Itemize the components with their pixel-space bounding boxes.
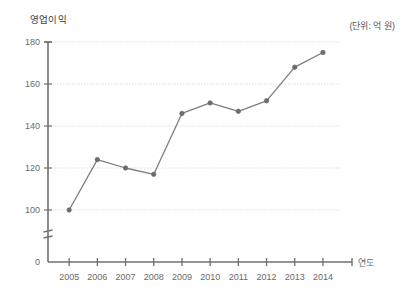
data-point-marker — [67, 208, 71, 212]
data-point-markers-group — [67, 50, 325, 212]
data-line-group — [69, 53, 323, 211]
y-tick-label: 0 — [14, 257, 40, 267]
data-point-marker — [95, 157, 99, 161]
data-point-marker — [123, 166, 127, 170]
data-point-marker — [264, 99, 268, 103]
line-chart: 영업이익 (단위: 억 원) 0100120140160180 20052006… — [0, 0, 407, 298]
data-point-marker — [293, 65, 297, 69]
tick-marks-group — [44, 42, 323, 266]
data-point-marker — [321, 50, 325, 54]
y-tick-label: 120 — [14, 163, 40, 173]
y-tick-label: 100 — [14, 205, 40, 215]
data-point-marker — [180, 111, 184, 115]
axes-group — [44, 42, 352, 266]
y-tick-label: 160 — [14, 79, 40, 89]
x-tick-label: 2014 — [306, 272, 340, 282]
data-point-marker — [152, 172, 156, 176]
chart-plot-area — [0, 0, 407, 298]
y-tick-label: 140 — [14, 121, 40, 131]
y-tick-label: 180 — [14, 37, 40, 47]
data-point-marker — [208, 101, 212, 105]
data-point-marker — [236, 109, 240, 113]
x-axis-title: 연도 — [358, 256, 374, 269]
